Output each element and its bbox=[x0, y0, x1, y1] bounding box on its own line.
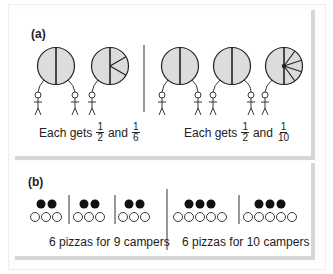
panel-b-art bbox=[0, 0, 333, 274]
camper-circle-icon bbox=[31, 213, 297, 222]
caption-b-left: 6 pizzas for 9 campers bbox=[49, 235, 170, 249]
caption-b-right: 6 pizzas for 10 campers bbox=[182, 235, 309, 249]
pizza-dot-icon bbox=[37, 200, 286, 209]
